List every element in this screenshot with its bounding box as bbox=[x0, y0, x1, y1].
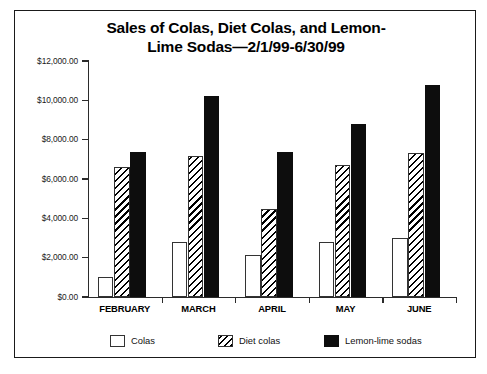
plot-area bbox=[88, 61, 456, 297]
y-axis-tick-label: $6,000.00 bbox=[6, 175, 78, 183]
x-axis-label-june: JUNE bbox=[382, 303, 456, 314]
bar-february-colas bbox=[98, 277, 114, 297]
bar-april-lemon-lime-sodas bbox=[277, 152, 293, 297]
bar-may-diet-colas bbox=[335, 165, 351, 297]
x-axis-tick bbox=[456, 297, 457, 303]
legend-item-colas[interactable]: Colas bbox=[110, 333, 155, 349]
bar-february-lemon-lime-sodas bbox=[130, 152, 146, 297]
y-axis-tick-label: $10,000.00 bbox=[6, 96, 78, 104]
x-axis-label-may: MAY bbox=[309, 303, 383, 314]
legend-label: Colas bbox=[131, 336, 155, 346]
y-axis-tick-label: $4,000.00 bbox=[6, 214, 78, 222]
legend-item-diet-colas[interactable]: Diet colas bbox=[218, 333, 280, 349]
chart-title-line-2: Lime Sodas—2/1/99-6/30/99 bbox=[51, 37, 441, 56]
legend-swatch-icon bbox=[324, 335, 339, 347]
chart-legend: ColasDiet colasLemon-lime sodas bbox=[88, 333, 458, 353]
legend-item-lemon-lime-sodas[interactable]: Lemon-lime sodas bbox=[324, 333, 422, 349]
legend-swatch-icon bbox=[110, 335, 125, 347]
x-axis-label-march: MARCH bbox=[162, 303, 236, 314]
bar-february-diet-colas bbox=[114, 167, 130, 297]
bar-june-diet-colas bbox=[408, 153, 424, 297]
bar-june-lemon-lime-sodas bbox=[425, 85, 441, 297]
bar-june-colas bbox=[392, 238, 408, 297]
bar-may-lemon-lime-sodas bbox=[351, 124, 367, 297]
y-axis-tick-label: $2,000.00 bbox=[6, 253, 78, 261]
legend-swatch-icon bbox=[218, 335, 233, 347]
x-axis-label-february: FEBRUARY bbox=[88, 303, 162, 314]
y-axis-tick-label: $0.00 bbox=[6, 293, 78, 301]
bar-may-colas bbox=[319, 242, 335, 297]
bar-april-colas bbox=[245, 255, 261, 297]
legend-label: Lemon-lime sodas bbox=[345, 336, 422, 346]
bar-april-diet-colas bbox=[261, 209, 277, 298]
legend-label: Diet colas bbox=[239, 336, 280, 346]
bar-march-lemon-lime-sodas bbox=[204, 96, 220, 297]
x-axis-label-april: APRIL bbox=[235, 303, 309, 314]
bar-march-diet-colas bbox=[188, 156, 204, 297]
y-axis-tick-label: $8,000.00 bbox=[6, 135, 78, 143]
y-axis-tick-label: $12,000.00 bbox=[6, 57, 78, 65]
chart-title-line-1: Sales of Colas, Diet Colas, and Lemon- bbox=[51, 18, 441, 37]
chart-title: Sales of Colas, Diet Colas, and Lemon- L… bbox=[51, 18, 441, 56]
bar-march-colas bbox=[172, 242, 188, 297]
